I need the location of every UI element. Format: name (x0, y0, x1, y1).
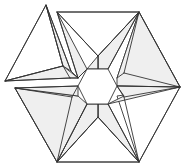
shaded-face-1 (87, 56, 98, 69)
star-hexagon-diagram (0, 0, 184, 168)
diagram-canvas (0, 0, 184, 168)
center-hexagon (78, 69, 117, 104)
